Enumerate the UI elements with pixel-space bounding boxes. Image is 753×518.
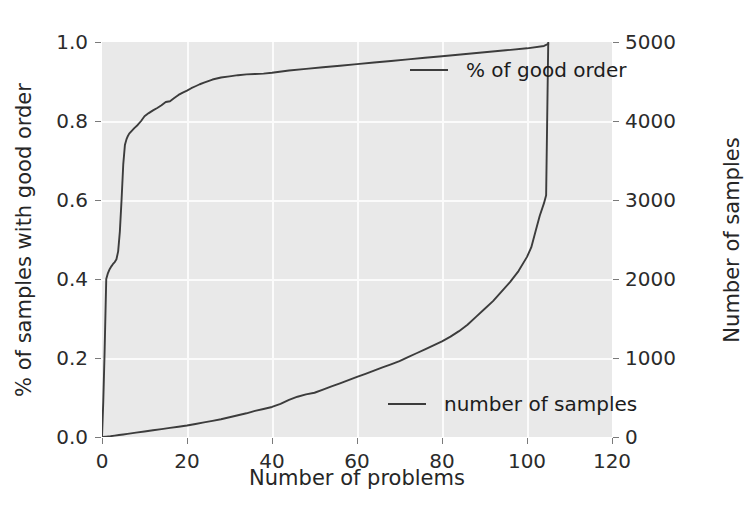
y-tick-mark-left — [95, 200, 101, 201]
x-tick-mark — [442, 438, 443, 444]
y-tick-label-left: 0.8 — [44, 111, 88, 131]
x-axis-label: Number of problems — [249, 468, 465, 489]
y-axis-label-left: % of samples with good order — [14, 83, 35, 397]
y-tick-mark-right — [613, 437, 619, 438]
y-tick-mark-right — [613, 200, 619, 201]
y-tick-label-left: 0.6 — [44, 190, 88, 210]
x-tick-label: 100 — [508, 451, 546, 471]
x-tick-mark — [612, 438, 613, 444]
y-tick-label-left: 0.0 — [44, 427, 88, 447]
legend-line-swatch-num-samples — [388, 403, 426, 405]
legend-label-good-order: % of good order — [466, 60, 627, 80]
y-tick-label-right: 3000 — [625, 190, 676, 210]
y-tick-label-left: 0.2 — [44, 348, 88, 368]
y-tick-label-right: 4000 — [625, 111, 676, 131]
plot-area — [102, 42, 612, 437]
y-axis-label-right: Number of samples — [722, 137, 743, 342]
y-tick-label-left: 0.4 — [44, 269, 88, 289]
x-tick-label: 0 — [96, 451, 109, 471]
y-tick-label-right: 0 — [625, 427, 638, 447]
y-tick-mark-right — [613, 279, 619, 280]
y-tick-label-right: 2000 — [625, 269, 676, 289]
x-tick-mark — [272, 438, 273, 444]
chart-figure: 0204060801001200.00.20.40.60.81.00100020… — [0, 0, 753, 518]
x-tick-mark — [527, 438, 528, 444]
x-tick-mark — [102, 438, 103, 444]
y-tick-mark-left — [95, 279, 101, 280]
y-tick-mark-right — [613, 42, 619, 43]
y-tick-mark-right — [613, 358, 619, 359]
y-tick-mark-left — [95, 437, 101, 438]
x-tick-label: 20 — [174, 451, 199, 471]
legend-label-num-samples: number of samples — [444, 394, 637, 414]
y-tick-mark-left — [95, 121, 101, 122]
line-good-order — [102, 44, 548, 437]
y-tick-mark-left — [95, 358, 101, 359]
legend-item-num-samples: number of samples — [382, 392, 643, 416]
x-tick-label: 120 — [593, 451, 631, 471]
x-tick-mark — [187, 438, 188, 444]
x-tick-mark — [357, 438, 358, 444]
y-tick-label-right: 5000 — [625, 32, 676, 52]
y-tick-label-right: 1000 — [625, 348, 676, 368]
y-tick-mark-right — [613, 121, 619, 122]
legend-item-good-order: % of good order — [404, 58, 633, 82]
legend-line-swatch-good-order — [410, 69, 448, 71]
y-tick-label-left: 1.0 — [44, 32, 88, 52]
y-tick-mark-left — [95, 42, 101, 43]
curves-layer — [102, 42, 612, 437]
